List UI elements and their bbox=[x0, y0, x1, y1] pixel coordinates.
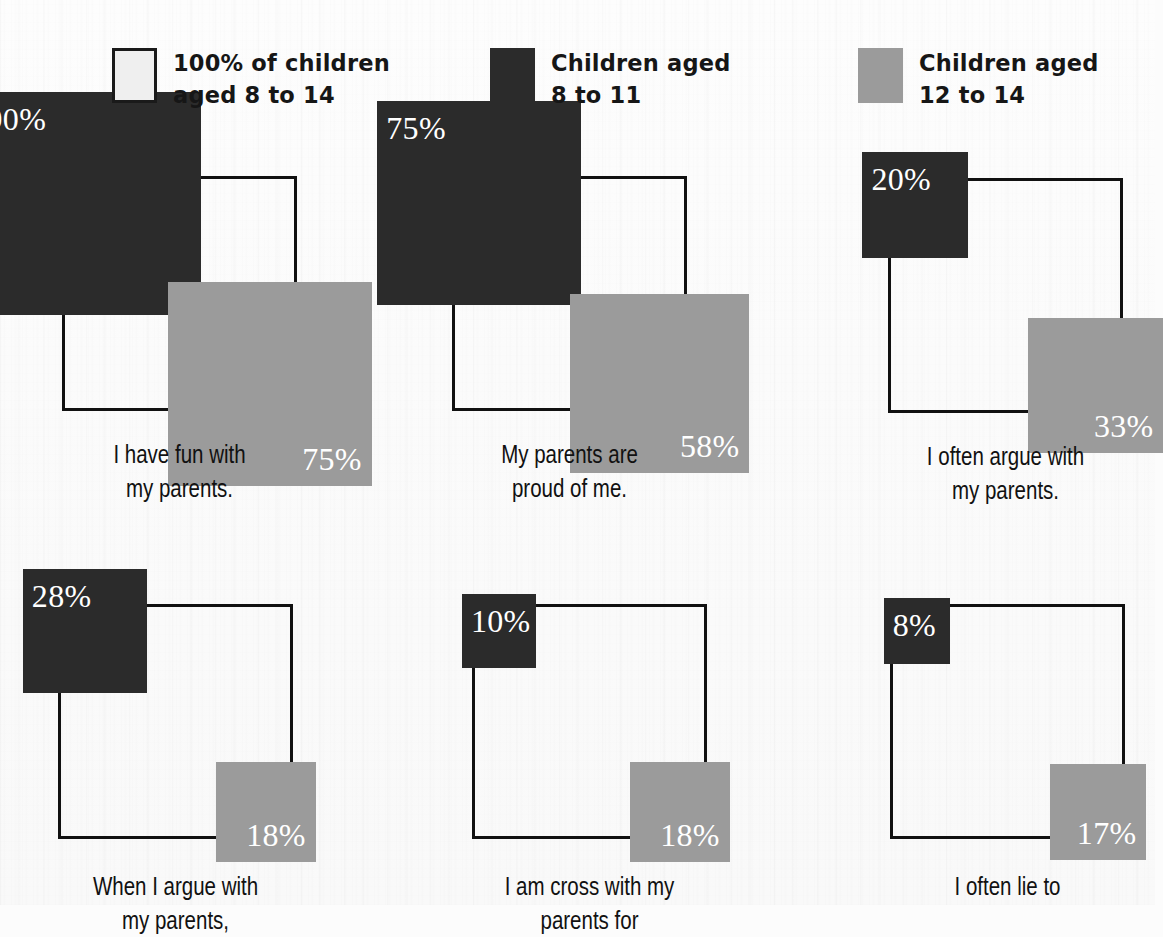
gray-square-swatch bbox=[858, 48, 903, 103]
value-label-age-8-11: 10% bbox=[471, 605, 531, 637]
cell-caption: I am cross with my parents for bbox=[493, 870, 686, 937]
chart-cell: 75%58%My parents are proud of me. bbox=[452, 176, 687, 411]
dark-value-square-age-8-11: 8% bbox=[884, 598, 950, 664]
chart-cell: 20%33%I often argue with my parents. bbox=[888, 178, 1123, 413]
value-label-age-8-11: 28% bbox=[32, 580, 92, 612]
legend-item-age-12-14: Children aged 12 to 14 bbox=[858, 48, 1099, 112]
outline-square-swatch bbox=[112, 48, 157, 103]
chart-cell: 10%18%I am cross with my parents for bbox=[472, 604, 707, 839]
legend-item-label: 100% of children aged 8 to 14 bbox=[173, 48, 390, 112]
gray-value-square-age-12-14: 18% bbox=[216, 762, 316, 862]
dark-value-square-age-8-11: 20% bbox=[862, 152, 967, 257]
value-label-age-12-14: 33% bbox=[1094, 410, 1154, 442]
cell-caption: My parents are proud of me. bbox=[473, 438, 666, 505]
value-label-age-12-14: 17% bbox=[1077, 817, 1137, 849]
legend-item-label: Children aged 8 to 11 bbox=[551, 48, 731, 112]
legend-item-total: 100% of children aged 8 to 14 bbox=[112, 48, 390, 112]
chart-cell: 90%75%I have fun with my parents. bbox=[62, 176, 297, 411]
value-label-age-12-14: 18% bbox=[660, 819, 720, 851]
value-label-age-12-14: 58% bbox=[680, 430, 740, 462]
legend-item-label: Children aged 12 to 14 bbox=[919, 48, 1099, 112]
value-label-age-12-14: 75% bbox=[302, 443, 362, 475]
value-label-age-8-11: 8% bbox=[893, 609, 936, 641]
cell-caption: When I argue with my parents, bbox=[79, 870, 272, 937]
gray-value-square-age-12-14: 17% bbox=[1050, 764, 1147, 861]
cell-caption: I have fun with my parents. bbox=[83, 438, 276, 505]
legend: 100% of children aged 8 to 14 Children a… bbox=[0, 40, 1155, 132]
cell-caption: I often argue with my parents. bbox=[909, 440, 1102, 507]
chart-cell: 28%18%When I argue with my parents, bbox=[58, 604, 293, 839]
chart-cell: 8%17%I often lie to bbox=[890, 604, 1125, 839]
gray-value-square-age-12-14: 33% bbox=[1028, 318, 1163, 453]
value-label-age-12-14: 18% bbox=[246, 819, 306, 851]
gray-value-square-age-12-14: 18% bbox=[630, 762, 730, 862]
dark-square-swatch bbox=[490, 48, 535, 103]
cell-caption: I often lie to bbox=[911, 870, 1104, 904]
legend-item-age-8-11: Children aged 8 to 11 bbox=[490, 48, 731, 112]
value-label-age-8-11: 20% bbox=[871, 163, 931, 195]
dark-value-square-age-8-11: 28% bbox=[23, 569, 147, 693]
dark-value-square-age-8-11: 10% bbox=[462, 594, 536, 668]
